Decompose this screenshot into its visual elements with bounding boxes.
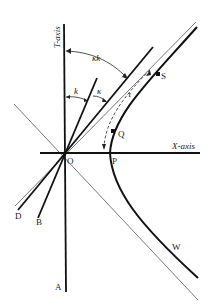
label-p: P bbox=[112, 156, 117, 166]
point-s-marker bbox=[156, 72, 160, 76]
line-od bbox=[18, 47, 153, 210]
label-o: O bbox=[67, 156, 74, 166]
label-kappa: κ bbox=[97, 86, 102, 96]
spacetime-diagram: T-axis X-axis O P Q S W A B D κk k κ τ bbox=[0, 0, 212, 308]
label-kappa-k: κk bbox=[92, 53, 101, 63]
label-b: B bbox=[36, 217, 42, 227]
label-w: W bbox=[172, 242, 181, 252]
label-a: A bbox=[55, 282, 62, 292]
label-s: S bbox=[161, 71, 166, 81]
tau-arrow-down bbox=[102, 144, 106, 150]
light-line-ascending bbox=[15, 22, 196, 206]
kappa-k-arrow-left bbox=[66, 48, 71, 54]
point-q-marker bbox=[111, 129, 115, 133]
label-k: k bbox=[74, 86, 79, 96]
tau-arrow-up bbox=[146, 70, 151, 76]
point-o-marker bbox=[63, 151, 67, 155]
x-axis-label: X-axis bbox=[171, 141, 195, 151]
label-d: D bbox=[15, 211, 22, 221]
t-axis bbox=[64, 24, 66, 292]
line-ob bbox=[38, 78, 97, 218]
t-axis-label: T-axis bbox=[52, 26, 62, 48]
label-q: Q bbox=[118, 129, 125, 139]
k-arrow-left bbox=[66, 95, 70, 99]
